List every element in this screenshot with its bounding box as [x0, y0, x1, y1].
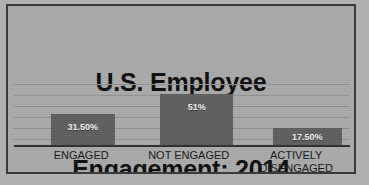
bar-not-engaged: 51%: [160, 94, 233, 146]
category-label-engaged: ENGAGED: [24, 149, 138, 162]
gridline: [14, 84, 350, 85]
category-axis: ENGAGED NOT ENGAGED ACTIVELY DISENGAGED: [14, 149, 350, 174]
bar-value-label-engaged: 31.50%: [51, 122, 115, 132]
category-label-actively-disengaged: ACTIVELY DISENGAGED: [236, 149, 356, 174]
bar-value-label-actively-disengaged: 17.50%: [273, 132, 342, 142]
category-label-not-engaged: NOT ENGAGED: [125, 149, 253, 162]
chart-figure: U.S. Employee Engagement: 2014 31.50% 51…: [0, 0, 369, 185]
plot-area: 31.50% 51% 17.50%: [14, 84, 350, 146]
bar-engaged: 31.50%: [51, 114, 115, 146]
bar-actively-disengaged: 17.50%: [273, 128, 342, 146]
bar-value-label-not-engaged: 51%: [160, 102, 233, 112]
chart-frame-border: U.S. Employee Engagement: 2014 31.50% 51…: [6, 4, 356, 174]
x-axis-baseline: [14, 145, 350, 147]
